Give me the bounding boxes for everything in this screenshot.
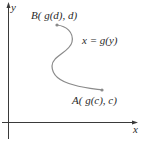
y-axis-arrow-icon	[7, 2, 11, 8]
point-a	[100, 88, 103, 91]
diagram-svg	[0, 0, 153, 145]
y-axis	[7, 2, 11, 139]
point-a-label: A( g(c), c)	[72, 95, 117, 106]
diagram-canvas: y x B( g(d), d) x = g(y) A( g(c), c)	[0, 0, 153, 145]
point-b	[55, 23, 58, 26]
curve-equation-label: x = g(y)	[82, 35, 118, 46]
x-axis	[2, 121, 138, 125]
y-axis-label: y	[11, 2, 16, 13]
point-b-label: B( g(d), d)	[31, 10, 77, 21]
x-axis-label: x	[133, 124, 138, 135]
